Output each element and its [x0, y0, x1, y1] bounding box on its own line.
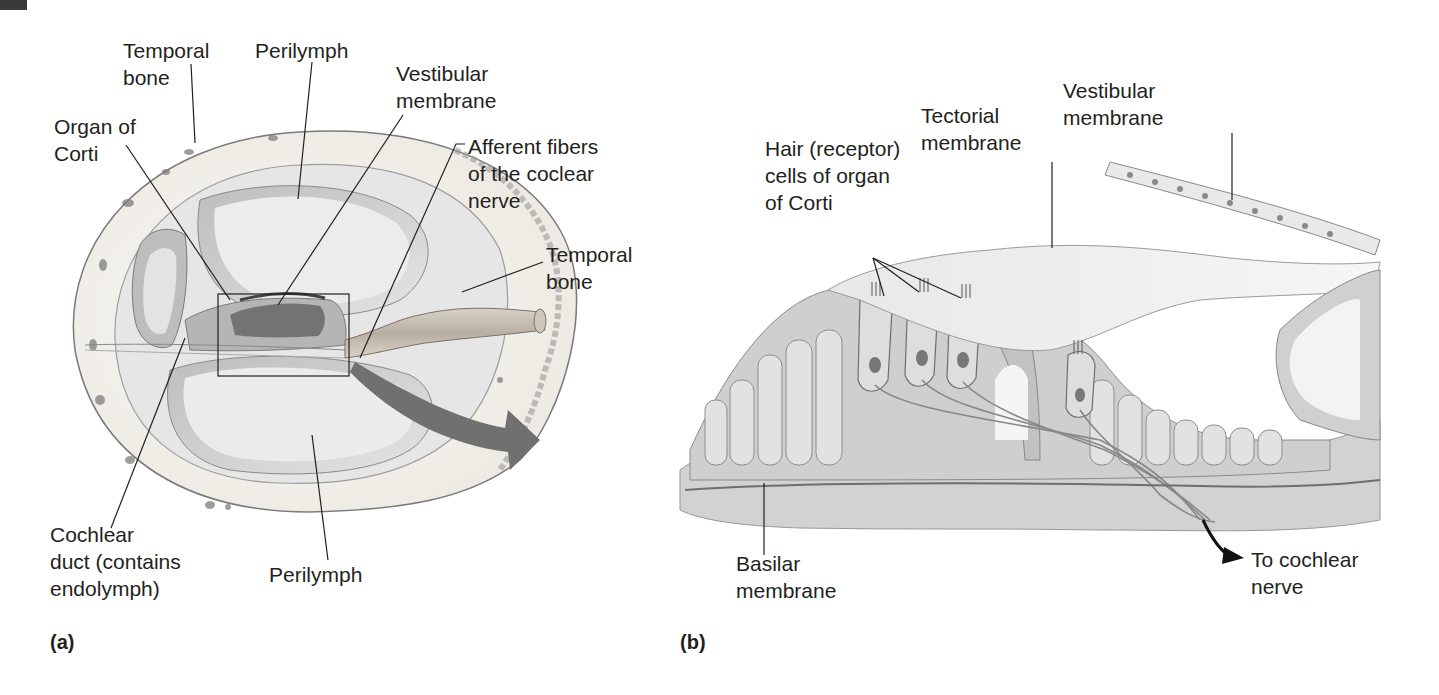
label-temporal-bone-top: Temporal bone	[123, 37, 209, 91]
label-to-cochlear-nerve: To cochlear nerve	[1251, 546, 1358, 600]
label-perilymph-bottom: Perilymph	[269, 561, 362, 588]
label-hair-cells: Hair (receptor) cells of organ of Corti	[765, 135, 900, 216]
label-cochlear-duct: Cochlear duct (contains endolymph)	[50, 521, 181, 602]
label-organ-of-corti: Organ of Corti	[54, 113, 136, 167]
label-vestibular-membrane-b: Vestibular membrane	[1063, 77, 1163, 131]
panel-tag-b: (b)	[680, 631, 706, 654]
panel-tag-a: (a)	[50, 631, 74, 654]
label-tectorial-membrane: Tectorial membrane	[921, 102, 1021, 156]
label-afferent-fibers: Afferent fibers of the coclear nerve	[468, 133, 598, 214]
label-vestibular-membrane-a: Vestibular membrane	[396, 60, 496, 114]
label-temporal-bone-right: Temporal bone	[546, 241, 632, 295]
label-basilar-membrane: Basilar membrane	[736, 550, 836, 604]
label-perilymph-top: Perilymph	[255, 37, 348, 64]
organ-of-corti-illustration	[680, 162, 1380, 531]
cochlea-cross-section-illustration	[0, 0, 1439, 695]
